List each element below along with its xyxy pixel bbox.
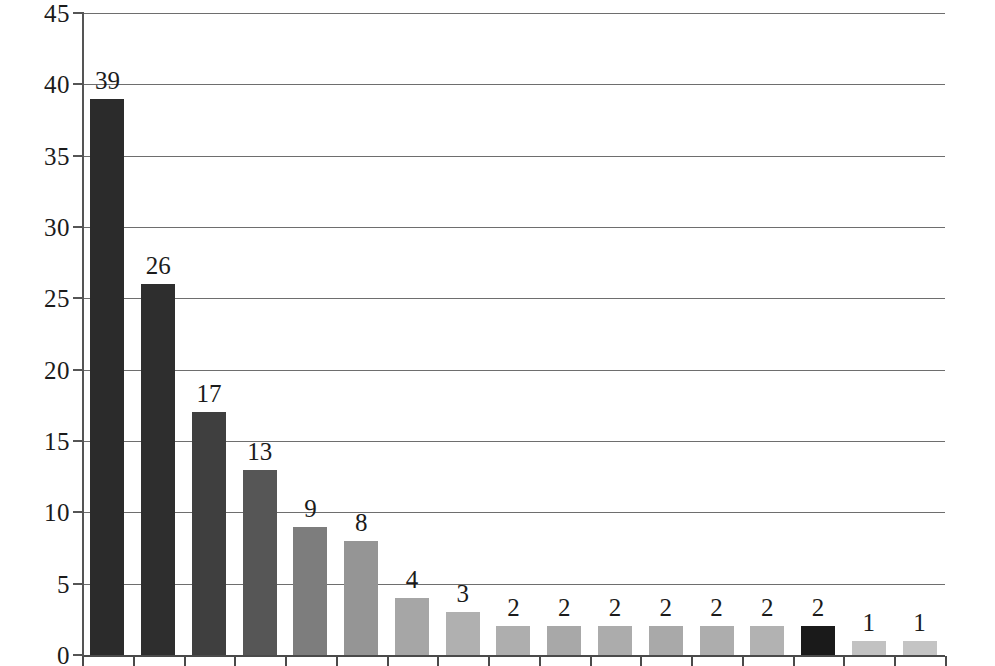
bar-slot[interactable]: 2 bbox=[793, 13, 844, 655]
bar-value-label: 8 bbox=[355, 510, 368, 535]
bar[interactable] bbox=[547, 626, 581, 655]
bar-value-label: 3 bbox=[456, 581, 469, 606]
y-tick-mark-40 bbox=[73, 83, 84, 85]
plot-area: 392617139843222222211 bbox=[82, 13, 945, 655]
bar-value-label: 2 bbox=[812, 595, 825, 620]
bar-slot[interactable]: 3 bbox=[437, 13, 488, 655]
bar[interactable] bbox=[446, 612, 480, 655]
bar[interactable] bbox=[496, 626, 530, 655]
y-tick-label: 40 bbox=[0, 72, 70, 97]
y-tick-mark-5 bbox=[73, 583, 84, 585]
bar[interactable] bbox=[801, 626, 835, 655]
bar[interactable] bbox=[649, 626, 683, 655]
bar[interactable] bbox=[141, 284, 175, 655]
bar[interactable] bbox=[293, 527, 327, 655]
x-axis-line bbox=[82, 655, 945, 657]
bar-value-label: 13 bbox=[247, 439, 272, 464]
y-tick-mark-25 bbox=[73, 297, 84, 299]
y-tick-label: 35 bbox=[0, 143, 70, 168]
bar-slot[interactable]: 9 bbox=[285, 13, 336, 655]
x-tick-mark bbox=[793, 656, 795, 666]
x-tick-mark bbox=[843, 656, 845, 666]
x-tick-mark bbox=[539, 656, 541, 666]
y-axis: 051015202530354045 bbox=[0, 0, 70, 666]
y-tick-mark-15 bbox=[73, 440, 84, 442]
bar-slot[interactable]: 2 bbox=[539, 13, 590, 655]
bar[interactable] bbox=[598, 626, 632, 655]
bar-value-label: 17 bbox=[196, 381, 221, 406]
bar-slot[interactable]: 2 bbox=[742, 13, 793, 655]
bar-value-label: 26 bbox=[146, 253, 171, 278]
bar[interactable] bbox=[243, 470, 277, 655]
y-tick-label: 5 bbox=[0, 571, 70, 596]
bar[interactable] bbox=[192, 412, 226, 655]
bar[interactable] bbox=[852, 641, 886, 655]
bar-slot[interactable]: 17 bbox=[184, 13, 235, 655]
bar-value-label: 2 bbox=[761, 595, 774, 620]
bar-value-label: 2 bbox=[507, 595, 520, 620]
x-tick-mark bbox=[894, 656, 896, 666]
bar-slot[interactable]: 2 bbox=[590, 13, 641, 655]
y-tick-label: 15 bbox=[0, 429, 70, 454]
bar-value-label: 2 bbox=[609, 595, 622, 620]
y-tick-mark-20 bbox=[73, 369, 84, 371]
bar[interactable] bbox=[903, 641, 937, 655]
x-tick-mark bbox=[691, 656, 693, 666]
x-tick-mark bbox=[742, 656, 744, 666]
x-tick-mark bbox=[387, 656, 389, 666]
bar-value-label: 2 bbox=[710, 595, 723, 620]
y-tick-mark-30 bbox=[73, 226, 84, 228]
x-tick-mark bbox=[640, 656, 642, 666]
bar-value-label: 4 bbox=[406, 567, 419, 592]
x-tick-mark bbox=[336, 656, 338, 666]
x-tick-mark bbox=[82, 656, 84, 666]
bar[interactable] bbox=[700, 626, 734, 655]
bar-value-label: 2 bbox=[660, 595, 673, 620]
y-tick-label: 0 bbox=[0, 643, 70, 666]
x-tick-mark bbox=[590, 656, 592, 666]
x-tick-mark bbox=[234, 656, 236, 666]
bar-slot[interactable]: 2 bbox=[640, 13, 691, 655]
y-tick-label: 30 bbox=[0, 215, 70, 240]
bar[interactable] bbox=[395, 598, 429, 655]
y-tick-label: 10 bbox=[0, 500, 70, 525]
bar-slot[interactable]: 2 bbox=[691, 13, 742, 655]
y-tick-mark-35 bbox=[73, 155, 84, 157]
bar-slot[interactable]: 26 bbox=[133, 13, 184, 655]
bar-value-label: 2 bbox=[558, 595, 571, 620]
bar-value-label: 1 bbox=[913, 610, 926, 635]
x-tick-mark bbox=[285, 656, 287, 666]
y-tick-label: 25 bbox=[0, 286, 70, 311]
x-tick-mark bbox=[437, 656, 439, 666]
y-tick-label: 20 bbox=[0, 357, 70, 382]
bar-slot[interactable]: 39 bbox=[82, 13, 133, 655]
bar[interactable] bbox=[90, 99, 124, 655]
y-tick-label: 45 bbox=[0, 1, 70, 26]
x-tick-mark bbox=[488, 656, 490, 666]
bar-slot[interactable]: 13 bbox=[234, 13, 285, 655]
y-tick-mark-45 bbox=[73, 12, 84, 14]
bar[interactable] bbox=[750, 626, 784, 655]
x-tick-mark bbox=[184, 656, 186, 666]
bar-slot[interactable]: 1 bbox=[843, 13, 894, 655]
bar-value-label: 39 bbox=[95, 68, 120, 93]
x-tick-mark bbox=[945, 656, 947, 666]
x-tick-mark bbox=[133, 656, 135, 666]
bar-slot[interactable]: 1 bbox=[894, 13, 945, 655]
bar-slot[interactable]: 8 bbox=[336, 13, 387, 655]
bar-chart: 051015202530354045 392617139843222222211 bbox=[0, 0, 995, 666]
bar-value-label: 1 bbox=[863, 610, 876, 635]
bar[interactable] bbox=[344, 541, 378, 655]
y-tick-mark-10 bbox=[73, 511, 84, 513]
bar-slot[interactable]: 2 bbox=[488, 13, 539, 655]
bar-value-label: 9 bbox=[304, 496, 317, 521]
bar-slot[interactable]: 4 bbox=[387, 13, 438, 655]
